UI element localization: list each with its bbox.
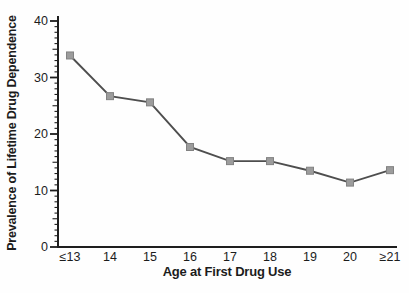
x-tick-label: 15 [143,250,157,264]
data-point-marker [347,179,354,186]
data-point-marker [187,143,194,150]
y-tick-label: 40 [34,14,48,28]
chart-figure: 010203040≤1314151617181920≥21 Prevalence… [0,0,409,293]
x-tick-label: 14 [103,250,117,264]
data-point-marker [387,167,394,174]
data-point-marker [267,158,274,165]
plot-area: 010203040≤1314151617181920≥21 [0,0,409,293]
y-tick-label: 0 [41,240,48,254]
x-tick-label: 17 [223,250,237,264]
x-tick-label: ≥21 [380,250,401,264]
x-tick-label: 20 [343,250,357,264]
x-tick-label: 19 [303,250,317,264]
y-tick-label: 30 [34,71,48,85]
data-point-marker [227,158,234,165]
data-point-marker [307,167,314,174]
x-tick-label: ≤13 [60,250,81,264]
y-tick-label: 10 [34,184,48,198]
y-axis-title: Prevalence of Lifetime Drug Dependence [5,15,19,251]
data-point-marker [147,99,154,106]
x-tick-label: 16 [183,250,197,264]
x-tick-label: 18 [263,250,277,264]
x-axis-title: Age at First Drug Use [163,264,292,279]
data-point-marker [67,52,74,59]
data-point-marker [107,93,114,100]
y-tick-label: 20 [34,127,48,141]
